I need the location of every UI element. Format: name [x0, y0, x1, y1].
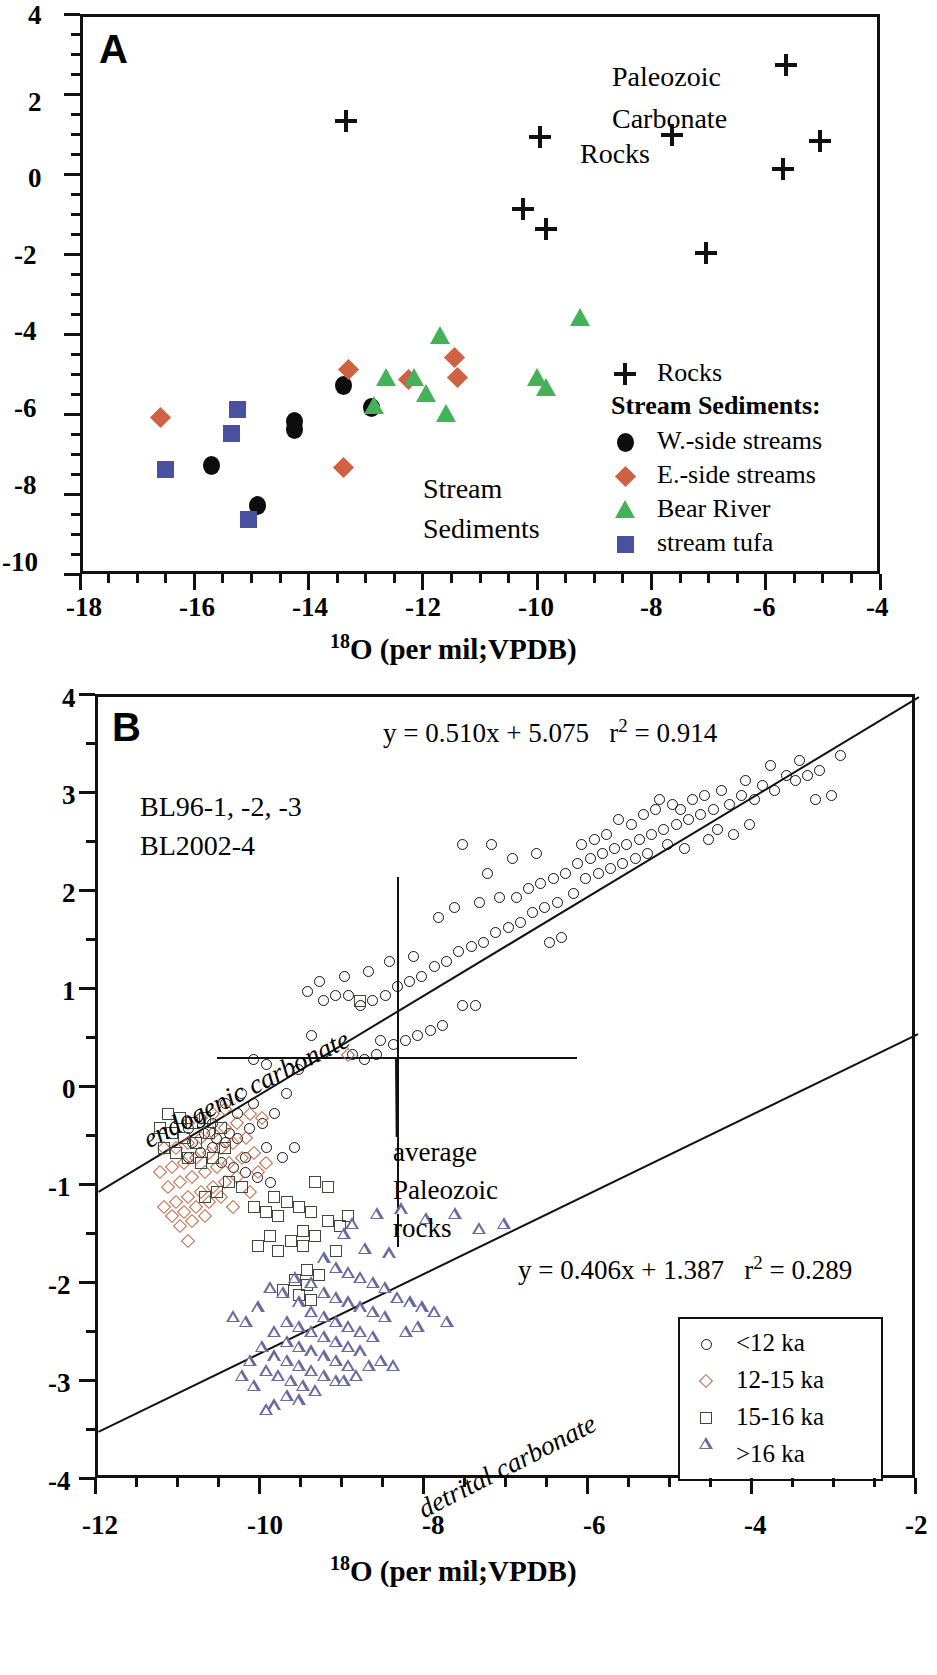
x-tick--14 — [307, 574, 310, 590]
y-tick--4.5 — [71, 353, 80, 356]
x-tick--7.5 — [463, 1478, 466, 1487]
x-tick--15 — [250, 574, 253, 583]
y-tick--9.5 — [71, 553, 80, 556]
y-tick-1.5 — [86, 938, 95, 941]
x-tick--12 — [94, 1478, 97, 1494]
x-tick--13 — [364, 574, 367, 583]
x-tick--8 — [650, 574, 653, 590]
y-tick--3.5 — [71, 313, 80, 316]
x-tick--11 — [176, 1478, 179, 1487]
y-tick--7.5 — [71, 473, 80, 476]
x-tick--6.5 — [736, 574, 739, 583]
x-tick--8 — [422, 1478, 425, 1494]
y-tick-1 — [79, 987, 95, 990]
y-tick--5 — [71, 373, 80, 376]
y-tick--8.5 — [71, 513, 80, 516]
y-tick--1.5 — [86, 1232, 95, 1235]
y-tick-2.5 — [71, 73, 80, 76]
x-tick--17.5 — [107, 574, 110, 583]
y-tick--4 — [64, 333, 80, 336]
x-tick--4 — [879, 574, 882, 590]
y-tick--3.5 — [86, 1428, 95, 1431]
y-tick-0.5 — [71, 153, 80, 156]
panel-a-ticks — [0, 0, 937, 680]
y-tick--9 — [71, 533, 80, 536]
panel-b: 13C (per mil; VPDB) 4 3 2 1 0 -1 -2 -3 -… — [0, 680, 937, 1675]
y-tick--7 — [71, 453, 80, 456]
x-tick--5.5 — [627, 1478, 630, 1487]
x-tick--12.5 — [393, 574, 396, 583]
y-tick-4 — [79, 693, 95, 696]
y-tick--0.5 — [71, 193, 80, 196]
y-tick--1.5 — [71, 233, 80, 236]
y-tick--3 — [79, 1379, 95, 1382]
x-tick--5 — [821, 574, 824, 583]
y-tick-2 — [79, 889, 95, 892]
x-tick--7.5 — [679, 574, 682, 583]
y-tick--2 — [79, 1281, 95, 1284]
x-tick--2.5 — [873, 1478, 876, 1487]
x-tick--9.5 — [564, 574, 567, 583]
x-tick--15.5 — [221, 574, 224, 583]
x-tick--4.5 — [850, 574, 853, 583]
x-tick--3.5 — [791, 1478, 794, 1487]
y-tick--6.5 — [71, 433, 80, 436]
y-tick--1 — [71, 213, 80, 216]
x-tick--18 — [79, 574, 82, 590]
x-tick--5 — [668, 1478, 671, 1487]
y-tick-3 — [71, 53, 80, 56]
x-tick--10.5 — [507, 574, 510, 583]
x-tick--10.5 — [217, 1478, 220, 1487]
y-tick-2 — [64, 93, 80, 96]
x-tick--6.5 — [545, 1478, 548, 1487]
x-tick--11.5 — [450, 574, 453, 583]
x-tick--10 — [536, 574, 539, 590]
x-tick--8.5 — [381, 1478, 384, 1487]
y-tick--2.5 — [86, 1330, 95, 1333]
y-tick--6 — [64, 413, 80, 416]
x-tick--16 — [193, 574, 196, 590]
y-tick-4 — [64, 13, 80, 16]
x-tick--10 — [258, 1478, 261, 1494]
x-tick--14.5 — [279, 574, 282, 583]
y-tick--10 — [64, 573, 80, 576]
x-tick--5.5 — [793, 574, 796, 583]
y-tick--4 — [79, 1477, 95, 1480]
x-tick--9.5 — [299, 1478, 302, 1487]
y-tick-3.5 — [71, 33, 80, 36]
x-tick--6 — [586, 1478, 589, 1494]
y-tick--2 — [64, 253, 80, 256]
y-tick-3.5 — [86, 742, 95, 745]
x-tick--7 — [504, 1478, 507, 1487]
y-tick-1.5 — [71, 113, 80, 116]
x-tick--3 — [832, 1478, 835, 1487]
y-tick--0.5 — [86, 1134, 95, 1137]
y-tick-0 — [79, 1085, 95, 1088]
x-tick--17 — [136, 574, 139, 583]
panel-b-ticks — [0, 680, 937, 1675]
x-tick--9 — [593, 574, 596, 583]
y-tick-3 — [79, 791, 95, 794]
x-tick--4 — [750, 1478, 753, 1494]
y-tick--1 — [79, 1183, 95, 1186]
y-tick--3 — [71, 293, 80, 296]
y-tick-2.5 — [86, 840, 95, 843]
y-tick-0 — [64, 173, 80, 176]
x-tick--8.5 — [621, 574, 624, 583]
x-tick--11.5 — [135, 1478, 138, 1487]
x-tick--16.5 — [164, 574, 167, 583]
x-tick--4.5 — [709, 1478, 712, 1487]
x-tick--6 — [764, 574, 767, 590]
x-tick--9 — [340, 1478, 343, 1487]
y-tick--8 — [64, 493, 80, 496]
panel-a: 13C (per mil; VPDB) 4 2 0 -2 -4 -6 -8 -1… — [0, 0, 937, 680]
y-tick-1 — [71, 133, 80, 136]
x-tick--13.5 — [336, 574, 339, 583]
x-tick--12 — [421, 574, 424, 590]
y-tick-0.5 — [86, 1036, 95, 1039]
x-tick--7 — [707, 574, 710, 583]
x-tick--11 — [479, 574, 482, 583]
y-tick--5.5 — [71, 393, 80, 396]
x-tick--2 — [914, 1478, 917, 1494]
y-tick--2.5 — [71, 273, 80, 276]
